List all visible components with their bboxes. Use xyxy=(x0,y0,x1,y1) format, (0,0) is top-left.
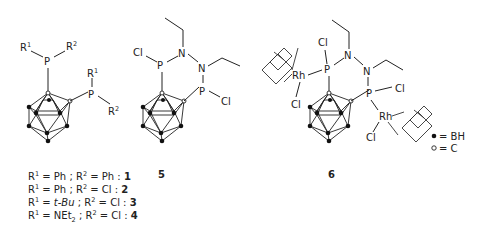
nitrogen-2: N xyxy=(363,66,370,77)
compound-6: P Cl N N P Cl Rh Cl Rh Cl 6 xyxy=(262,20,432,180)
nitrogen-1: N xyxy=(344,50,351,61)
caption-row-2: R1 = Ph ; R2 = Cl : 2 xyxy=(28,183,128,195)
chlorine-1: Cl xyxy=(318,37,328,48)
compound-1-4: P R1 R2 P R1 R2 xyxy=(20,40,119,143)
phosphorus-1: P xyxy=(157,60,163,71)
phosphorus-1: P xyxy=(324,64,330,75)
phosphorus-2: P xyxy=(199,86,205,97)
caption-row-1: R1 = Ph ; R2 = Ph : 1 xyxy=(28,170,131,182)
chlorine-2: Cl xyxy=(221,96,231,107)
phosphorus-1: P xyxy=(44,56,50,67)
phosphorus-2: P xyxy=(88,89,94,100)
chlorine-1: Cl xyxy=(133,47,143,58)
chlorine-2: Cl xyxy=(395,83,405,94)
rhodium-2: Rh xyxy=(379,111,392,122)
caption-row-3: R1 = t-Bu ; R2 = Cl : 3 xyxy=(28,196,137,208)
legend-c: = C xyxy=(439,143,458,154)
caption-row-4: R1 = NEt2 ; R2 = Cl : 4 xyxy=(28,209,138,224)
r2-label-b: R2 xyxy=(108,105,119,117)
compound-number-5: 5 xyxy=(158,169,165,180)
phosphorus-2: P xyxy=(366,88,372,99)
carborane-cage xyxy=(308,91,353,143)
rhodium-1-chlorine: Cl xyxy=(291,99,301,110)
substituent-captions: R1 = Ph ; R2 = Ph : 1 R1 = Ph ; R2 = Cl … xyxy=(28,170,138,224)
rhodium-1: Rh xyxy=(292,70,305,81)
legend: = BH = C xyxy=(432,131,465,154)
carborane-cage xyxy=(141,91,186,143)
nitrogen-1: N xyxy=(178,48,185,59)
rhodium-2-chlorine: Cl xyxy=(366,132,376,143)
r1-label-a: R1 xyxy=(20,41,31,53)
compound-5: P Cl N N P Cl 5 xyxy=(133,18,240,180)
cod-ligand-2 xyxy=(402,106,432,142)
carbon-circle-icon xyxy=(432,146,436,150)
compound-number-6: 6 xyxy=(328,169,335,180)
chemical-structures-diagram: P R1 R2 P R1 R2 R1 = Ph ; R2 = Ph : 1 R1… xyxy=(0,0,477,233)
r2-label-a: R2 xyxy=(66,40,77,52)
carborane-cage xyxy=(27,91,72,143)
r1-label-b: R1 xyxy=(87,67,98,79)
legend-bh: = BH xyxy=(439,131,465,142)
nitrogen-2: N xyxy=(198,63,205,74)
bh-dot-icon xyxy=(432,134,437,139)
